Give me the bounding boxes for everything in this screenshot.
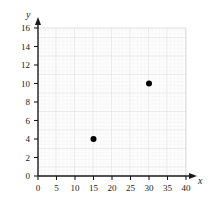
scatter-plot-figure: y x 0 2 4 6 8 10 12 14 16 0 5 10 15 20 2… [0, 0, 209, 198]
plot-canvas [0, 0, 209, 198]
x-tick-label: 20 [104, 184, 120, 193]
x-tick-label: 0 [30, 184, 46, 193]
x-tick-label: 5 [49, 184, 65, 193]
x-tick-label: 25 [123, 184, 139, 193]
x-tick-label: 10 [67, 184, 83, 193]
x-tick-label: 40 [178, 184, 194, 193]
data-point [146, 81, 152, 87]
y-tick-label: 16 [14, 24, 30, 33]
data-point [91, 136, 97, 142]
plot-grid-area [38, 28, 186, 176]
x-axis-label: x [198, 176, 202, 186]
y-axis-label: y [26, 10, 30, 20]
x-tick-label: 35 [160, 184, 176, 193]
x-tick-label: 15 [86, 184, 102, 193]
major-gridlines [38, 28, 186, 176]
y-tick-label: 14 [14, 43, 30, 52]
y-tick-label: 12 [14, 61, 30, 70]
y-tick-label: 4 [14, 135, 30, 144]
y-tick-label: 10 [14, 80, 30, 89]
y-tick-label: 2 [14, 154, 30, 163]
y-tick-label: 6 [14, 117, 30, 126]
y-axis-arrowhead [35, 17, 41, 25]
y-tick-label: 8 [14, 98, 30, 107]
y-tick-label: 0 [14, 172, 30, 181]
x-axis-arrowhead [189, 173, 197, 179]
x-tick-label: 30 [141, 184, 157, 193]
